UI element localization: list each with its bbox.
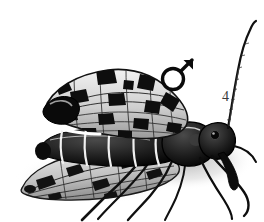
figure-illustration-4: 4 [0,0,264,222]
head [199,123,235,160]
scorpionfly-drawing [0,0,264,222]
figure-number-label: 4 [222,90,229,104]
compound-eye [211,131,220,140]
antenna [227,21,256,128]
forewing [43,69,187,140]
